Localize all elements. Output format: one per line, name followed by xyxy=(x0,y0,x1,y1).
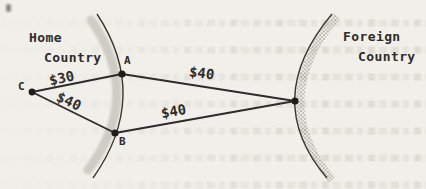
route-c-a xyxy=(32,74,122,92)
foreign-port-dot xyxy=(291,97,298,104)
foreign-coast-stipple-band xyxy=(300,16,337,180)
node-a-dot xyxy=(118,70,125,77)
node-a-label: A xyxy=(124,55,131,67)
cost-a-to-foreign-label: $40 xyxy=(188,64,215,83)
scanned-figure-page: Home Country Foreign Country A B C $30 $… xyxy=(0,0,426,189)
node-b-dot xyxy=(111,129,118,136)
foreign-country-label-line2: Country xyxy=(358,50,416,64)
foreign-country-label-line1: Foreign xyxy=(343,30,401,44)
home-country-label-line2: Country xyxy=(44,51,102,65)
node-c-label: C xyxy=(18,81,25,93)
route-b-foreign xyxy=(115,101,295,133)
node-c-dot xyxy=(29,89,36,96)
node-b-label: B xyxy=(119,136,126,148)
home-country-label-line1: Home xyxy=(29,31,62,45)
